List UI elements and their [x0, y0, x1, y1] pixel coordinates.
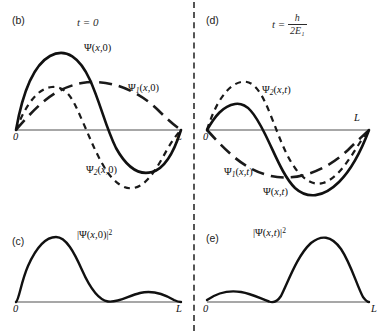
panel-c-curve-probability-density	[16, 237, 181, 302]
physics-figure: (b) t = 0 0 L Ψ(x,0) Ψ1(x,0) Ψ2(x,0) (c)…	[0, 0, 382, 333]
panel-b-time-value: 0	[93, 16, 99, 28]
panel-d-time-numerator: h	[288, 13, 307, 25]
panel-b-label-psi-total: Ψ(x,0)	[84, 42, 111, 53]
panel-e-origin-label: 0	[203, 303, 208, 314]
panel-b-time-prefix: t =	[77, 16, 90, 28]
panel-e-end-label: L	[371, 303, 377, 314]
panel-c-end-label: L	[176, 303, 182, 314]
panel-label-d: (d)	[206, 14, 219, 26]
panel-e-plot	[193, 222, 382, 322]
panel-d-label-psi-total: Ψ(x,t)	[263, 186, 288, 197]
panel-b-time-title: t = 0	[77, 16, 98, 28]
panel-d-curve-psi-total	[207, 104, 369, 196]
panel-b-end-label: L	[176, 131, 182, 142]
panel-d-label-psi-2: Ψ2(x,t)	[262, 84, 291, 97]
panel-b-label-psi-2: Ψ2(x,0)	[86, 164, 117, 177]
panel-c-origin-label: 0	[13, 303, 18, 314]
panel-b-origin-label: 0	[13, 131, 18, 142]
panel-e-label-probability-density: |Ψ(x,t)|2	[253, 226, 286, 238]
panel-b-label-psi-1: Ψ1(x,0)	[128, 82, 159, 95]
panel-e-curve-probability-density	[207, 238, 369, 303]
panel-d-label-psi-1: Ψ1(x,t)	[224, 166, 253, 179]
panel-d-time-prefix: t =	[272, 18, 285, 30]
panel-c-label-probability-density: |Ψ(x,0)|2	[77, 228, 112, 240]
panel-d-origin-label: 0	[203, 131, 208, 142]
panel-label-b: (b)	[12, 14, 25, 26]
panel-d-end-label: L	[354, 112, 360, 123]
